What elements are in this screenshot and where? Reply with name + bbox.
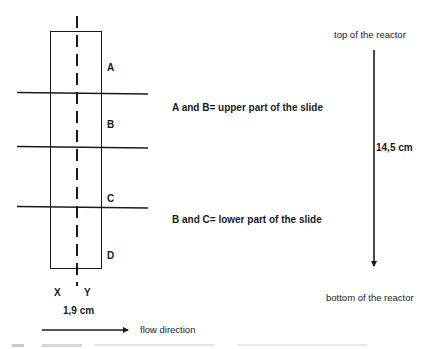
axis-label-x: X (54, 288, 61, 298)
segment-label-d: D (107, 251, 114, 261)
note-lower-part: B and C= lower part of the slide (172, 215, 322, 225)
note-upper-part: A and B= upper part of the slide (172, 103, 323, 113)
segment-label-a: A (107, 63, 114, 73)
reactor-height-label: 14,5 cm (376, 143, 413, 153)
flow-direction-label: flow direction (140, 325, 195, 335)
cut-line-bc (17, 147, 148, 149)
segment-label-b: B (107, 120, 114, 130)
truncated-caption (12, 344, 412, 349)
reactor-bottom-label: bottom of the reactor (326, 293, 414, 303)
cut-line-ab (17, 93, 148, 95)
axis-label-y: Y (84, 288, 91, 298)
cut-line-cd (17, 207, 148, 209)
reactor-top-label: top of the reactor (334, 30, 406, 40)
segment-label-c: C (107, 194, 114, 204)
width-label: 1,9 cm (63, 306, 94, 316)
